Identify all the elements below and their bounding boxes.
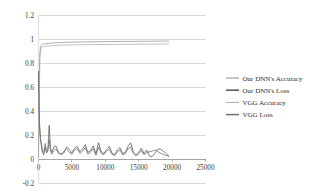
y-tick-label: 1.2 [25, 12, 34, 20]
line-chart: -0.200.20.40.60.811.2 050001000015000200… [0, 0, 328, 196]
y-tick-label: 0.4 [25, 108, 34, 116]
y-tick-label: 0.8 [25, 60, 34, 68]
y-tick-label: 0.2 [25, 132, 34, 140]
legend-label: VGG Loss [243, 111, 273, 119]
legend-label: Our DNN's Loss [243, 87, 290, 95]
y-tick-label: -0.2 [23, 180, 35, 188]
y-tick-label: 0.6 [25, 84, 34, 92]
x-tick-label: 15000 [130, 164, 148, 172]
x-tick-label: 20000 [163, 164, 181, 172]
legend-label: VGG Accuracy [243, 99, 287, 107]
chart-container: -0.200.20.40.60.811.2 050001000015000200… [0, 0, 328, 196]
y-tick-label: 1 [30, 36, 34, 44]
x-tick-label: 10000 [96, 164, 114, 172]
y-tick-label: 0 [30, 156, 34, 164]
x-tick-label: 25000 [197, 164, 215, 172]
legend-label: Our DNN's Accuracy [243, 75, 303, 83]
x-tick-label: 5000 [65, 164, 80, 172]
